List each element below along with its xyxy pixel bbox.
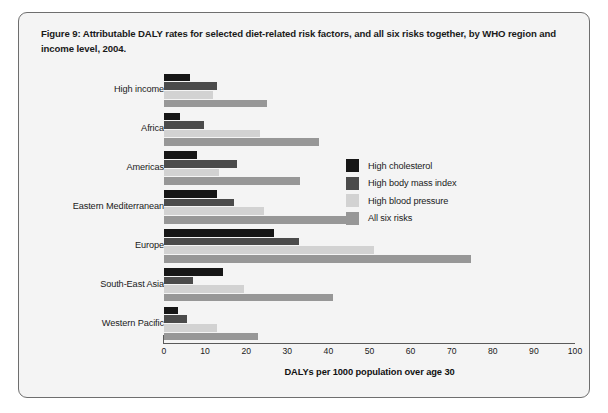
bar [164, 199, 234, 207]
legend-label: All six risks [368, 213, 412, 223]
bar-group [164, 74, 574, 107]
bar [164, 82, 217, 90]
y-axis-label: Europe [48, 240, 164, 250]
bar [164, 160, 237, 168]
x-axis-line [164, 343, 575, 344]
bar [164, 307, 178, 315]
figure-frame: Figure 9: Attributable DALY rates for se… [18, 12, 590, 398]
y-axis-label: Africa [48, 123, 164, 133]
x-axis-tick-label: 100 [568, 346, 582, 356]
y-axis-label: South-East Asia [48, 279, 164, 289]
y-axis-label: Western Pacific [48, 318, 164, 328]
bar [164, 100, 267, 108]
legend-item: High cholesterol [346, 157, 516, 175]
bar [164, 207, 264, 215]
x-axis-tick-label: 10 [200, 346, 210, 356]
bar [164, 246, 374, 254]
y-axis-label: Eastern Mediterranean [48, 201, 164, 211]
legend-item: High body mass index [346, 175, 516, 193]
bar [164, 285, 244, 293]
bar [164, 229, 274, 237]
y-axis-label: High income [48, 84, 164, 94]
x-axis-tick-label: 90 [529, 346, 539, 356]
y-axis-label: Americas [48, 162, 164, 172]
bar [164, 268, 223, 276]
x-axis-tick-label: 70 [447, 346, 457, 356]
legend-label: High cholesterol [368, 161, 432, 171]
x-axis-title: DALYs per 1000 population over age 30 [164, 367, 575, 377]
bar [164, 113, 180, 121]
bar [164, 294, 333, 302]
legend-label: High blood pressure [368, 196, 448, 206]
bar [164, 333, 258, 341]
chart-legend: High cholesterolHigh body mass indexHigh… [346, 157, 516, 227]
bar [164, 177, 300, 185]
bar [164, 151, 197, 159]
legend-item: High blood pressure [346, 192, 516, 210]
bar [164, 169, 219, 177]
y-axis-line [163, 335, 164, 344]
bar [164, 138, 319, 146]
bar-chart: High incomeAfricaAmericasEastern Mediter… [41, 71, 569, 389]
x-axis-tick-label: 30 [283, 346, 293, 356]
bar [164, 315, 187, 323]
x-axis-tick-label: 60 [406, 346, 416, 356]
legend-swatch [346, 159, 359, 172]
bar-group [164, 307, 574, 340]
x-axis-tick-label: 50 [365, 346, 375, 356]
x-axis-tick-label: 80 [488, 346, 498, 356]
bar [164, 277, 193, 285]
bar [164, 74, 190, 82]
legend-swatch [346, 212, 359, 225]
y-axis-category-labels: High incomeAfricaAmericasEastern Mediter… [41, 71, 164, 343]
x-axis-tick-label: 0 [162, 346, 167, 356]
bar [164, 130, 260, 138]
chart-plot-area: High incomeAfricaAmericasEastern Mediter… [41, 71, 569, 389]
bar [164, 238, 299, 246]
bar [164, 190, 217, 198]
bar-group [164, 113, 574, 146]
x-axis-tick-label: 40 [324, 346, 334, 356]
x-axis-tick-labels: 0102030405060708090100 [164, 346, 575, 362]
x-axis-tick-label: 20 [241, 346, 251, 356]
bar [164, 121, 204, 129]
legend-swatch [346, 194, 359, 207]
bar [164, 255, 471, 263]
figure-caption: Figure 9: Attributable DALY rates for se… [41, 27, 561, 56]
bar [164, 324, 217, 332]
bar-group [164, 229, 574, 262]
legend-swatch [346, 177, 359, 190]
bar [164, 216, 354, 224]
legend-item: All six risks [346, 210, 516, 228]
legend-label: High body mass index [368, 178, 456, 188]
bar [164, 91, 213, 99]
bar-group [164, 268, 574, 301]
